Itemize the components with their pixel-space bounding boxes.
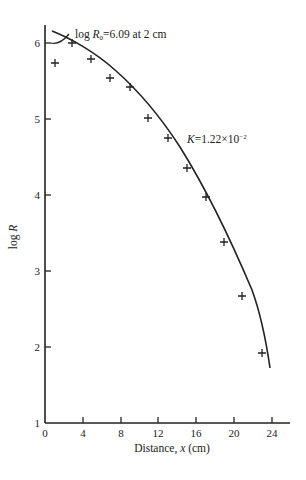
annotation-log-r0: log R0=6.09 at 2 cm (75, 28, 166, 42)
annotation-k: K=1.22×10−2 (186, 133, 247, 145)
y-axis-label: log R (7, 225, 20, 250)
data-points (51, 39, 266, 357)
data-point (106, 74, 114, 82)
svg-text:2: 2 (35, 341, 41, 353)
x-ticks (83, 417, 272, 423)
data-point (183, 164, 191, 172)
annotation-pointer (51, 34, 69, 43)
svg-text:20: 20 (229, 427, 241, 439)
svg-text:5: 5 (35, 113, 41, 125)
svg-text:1: 1 (35, 417, 41, 429)
data-point (144, 114, 152, 122)
y-ticks (45, 43, 51, 347)
svg-text:6: 6 (35, 37, 41, 49)
data-point (258, 349, 266, 357)
data-point (238, 292, 246, 300)
svg-text:8: 8 (118, 427, 124, 439)
data-point (87, 55, 95, 63)
svg-text:16: 16 (191, 427, 203, 439)
svg-text:4: 4 (80, 427, 86, 439)
data-point (68, 39, 76, 47)
svg-text:0: 0 (42, 427, 48, 439)
svg-text:3: 3 (35, 265, 41, 277)
data-point (202, 193, 210, 201)
data-point (51, 59, 59, 67)
y-tick-labels: 1 2 3 4 5 6 (35, 37, 41, 429)
x-tick-labels: 0 4 8 12 16 20 24 (42, 427, 278, 439)
fitted-curve (52, 31, 270, 368)
data-point (220, 238, 228, 246)
data-point (164, 134, 172, 142)
svg-text:4: 4 (35, 189, 41, 201)
svg-text:12: 12 (153, 427, 164, 439)
chart: 1 2 3 4 5 6 0 4 8 12 16 20 24 Distance, … (0, 0, 306, 480)
data-point (126, 83, 134, 91)
svg-text:24: 24 (267, 427, 279, 439)
x-axis-label: Distance, x (cm) (134, 442, 210, 455)
